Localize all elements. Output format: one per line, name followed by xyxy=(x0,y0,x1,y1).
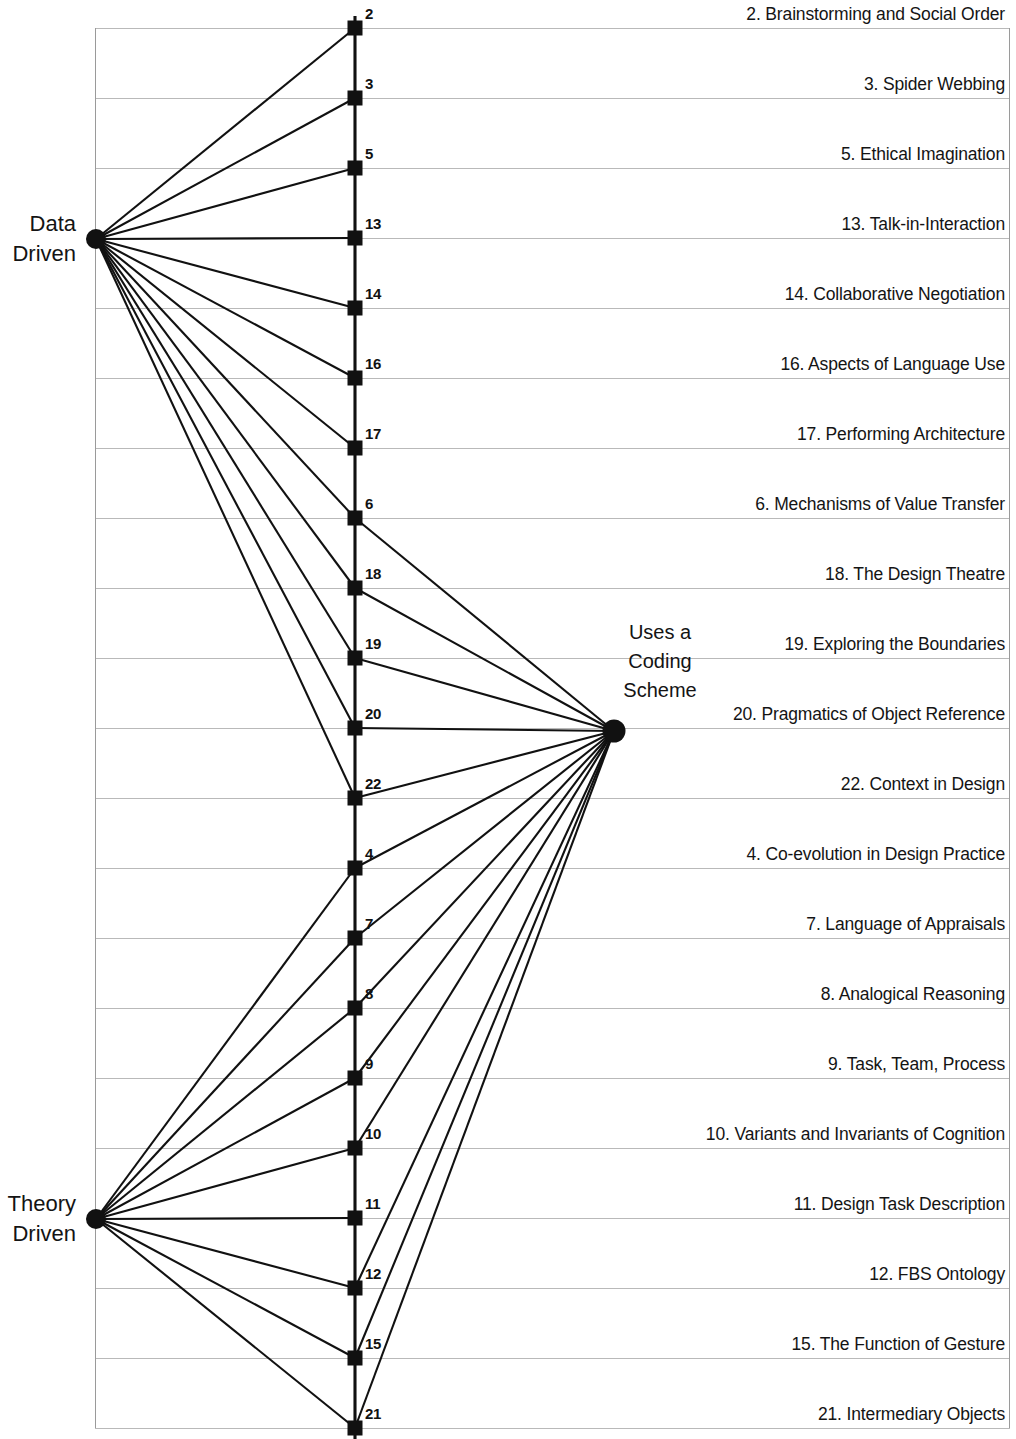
node-marker-14[interactable] xyxy=(348,301,363,316)
row-label-8: 8. Analogical Reasoning xyxy=(821,984,1005,1004)
node-number-13: 13 xyxy=(365,215,381,232)
node-number-22: 22 xyxy=(365,775,381,792)
node-marker-21[interactable] xyxy=(348,1421,363,1436)
row-label-13: 13. Talk-in-Interaction xyxy=(841,214,1005,234)
row-label-20: 20. Pragmatics of Object Reference xyxy=(733,704,1005,724)
data-driven-hub-dot[interactable] xyxy=(86,229,106,249)
edge-data_driven-to-node-18 xyxy=(96,239,355,588)
edge-coding_scheme-to-node-10 xyxy=(355,731,614,1148)
node-number-8: 8 xyxy=(365,985,373,1002)
row-label-2: 2. Brainstorming and Social Order xyxy=(746,4,1005,24)
row-label-4: 4. Co-evolution in Design Practice xyxy=(746,844,1005,864)
edge-data_driven-to-node-13 xyxy=(96,238,355,239)
node-number-12: 12 xyxy=(365,1265,381,1282)
edge-coding_scheme-to-node-18 xyxy=(355,588,614,731)
node-number-3: 3 xyxy=(365,75,373,92)
row-label-18: 18. The Design Theatre xyxy=(825,564,1005,584)
node-number-7: 7 xyxy=(365,915,373,932)
coding-scheme-hub-label-line-3: Scheme xyxy=(623,679,696,701)
row-label-22: 22. Context in Design xyxy=(841,774,1005,794)
node-number-5: 5 xyxy=(365,145,373,162)
row-label-21: 21. Intermediary Objects xyxy=(818,1404,1005,1424)
row-label-15: 15. The Function of Gesture xyxy=(791,1334,1005,1354)
node-marker-12[interactable] xyxy=(348,1281,363,1296)
data-driven-hub-label-line-2: Driven xyxy=(12,241,76,266)
node-marker-2[interactable] xyxy=(348,21,363,36)
coding-scheme-hub-label-line-1: Uses a xyxy=(629,621,692,643)
edge-data_driven-to-node-5 xyxy=(96,168,355,239)
edge-coding_scheme-to-node-4 xyxy=(355,731,614,868)
node-marker-20[interactable] xyxy=(348,721,363,736)
edge-coding_scheme-to-node-6 xyxy=(355,518,614,731)
edge-theory_driven-to-node-12 xyxy=(96,1219,355,1288)
node-marker-7[interactable] xyxy=(348,931,363,946)
node-number-16: 16 xyxy=(365,355,381,372)
edge-coding_scheme-to-node-8 xyxy=(355,731,614,1008)
node-marker-17[interactable] xyxy=(348,441,363,456)
node-markers-layer xyxy=(348,21,363,1436)
node-number-19: 19 xyxy=(365,635,381,652)
row-labels-layer: 2. Brainstorming and Social Order3. Spid… xyxy=(706,4,1006,1424)
edge-theory_driven-to-node-10 xyxy=(96,1148,355,1219)
row-label-7: 7. Language of Appraisals xyxy=(806,914,1005,934)
edge-coding_scheme-to-node-22 xyxy=(355,731,614,798)
node-number-15: 15 xyxy=(365,1335,381,1352)
edge-theory_driven-to-node-8 xyxy=(96,1008,355,1219)
edge-data_driven-to-node-2 xyxy=(96,28,355,239)
theory-driven-hub-dot[interactable] xyxy=(86,1209,106,1229)
edge-coding_scheme-to-node-19 xyxy=(355,658,614,731)
node-number-11: 11 xyxy=(365,1195,380,1212)
node-number-14: 14 xyxy=(365,285,382,302)
row-label-9: 9. Task, Team, Process xyxy=(828,1054,1005,1074)
row-label-6: 6. Mechanisms of Value Transfer xyxy=(755,494,1005,514)
node-number-21: 21 xyxy=(365,1405,381,1422)
node-number-17: 17 xyxy=(365,425,381,442)
node-number-10: 10 xyxy=(365,1125,381,1142)
node-marker-15[interactable] xyxy=(348,1351,363,1366)
bipartite-diagram-canvas: 2351314161761819202247891011121521 2. Br… xyxy=(0,0,1016,1439)
row-label-16: 16. Aspects of Language Use xyxy=(780,354,1005,374)
data-driven-hub-label-line-1: Data xyxy=(30,211,77,236)
node-marker-5[interactable] xyxy=(348,161,363,176)
node-number-6: 6 xyxy=(365,495,373,512)
row-label-5: 5. Ethical Imagination xyxy=(841,144,1005,164)
edge-theory_driven-to-node-4 xyxy=(96,868,355,1219)
node-marker-3[interactable] xyxy=(348,91,363,106)
edge-data_driven-to-node-20 xyxy=(96,239,355,728)
node-number-9: 9 xyxy=(365,1055,373,1072)
node-number-20: 20 xyxy=(365,705,381,722)
node-number-4: 4 xyxy=(365,845,374,862)
edge-coding_scheme-to-node-15 xyxy=(355,731,614,1358)
node-marker-13[interactable] xyxy=(348,231,363,246)
row-label-10: 10. Variants and Invariants of Cognition xyxy=(706,1124,1005,1144)
theory-driven-hub-label-line-1: Theory xyxy=(8,1191,76,1216)
row-label-17: 17. Performing Architecture xyxy=(797,424,1005,444)
theory-driven-hub-label-line-2: Driven xyxy=(12,1221,76,1246)
edge-data_driven-to-node-17 xyxy=(96,239,355,448)
edge-coding_scheme-to-node-12 xyxy=(355,731,614,1288)
node-marker-4[interactable] xyxy=(348,861,363,876)
node-marker-8[interactable] xyxy=(348,1001,363,1016)
row-label-12: 12. FBS Ontology xyxy=(869,1264,1005,1284)
edge-coding_scheme-to-node-9 xyxy=(355,731,614,1078)
node-marker-22[interactable] xyxy=(348,791,363,806)
edge-theory_driven-to-node-21 xyxy=(96,1219,355,1428)
row-label-3: 3. Spider Webbing xyxy=(864,74,1005,94)
node-number-2: 2 xyxy=(365,5,373,22)
node-marker-11[interactable] xyxy=(348,1211,363,1226)
node-marker-9[interactable] xyxy=(348,1071,363,1086)
node-marker-16[interactable] xyxy=(348,371,363,386)
node-numbers-layer: 2351314161761819202247891011121521 xyxy=(365,5,382,1422)
edge-data_driven-to-node-14 xyxy=(96,239,355,308)
row-label-19: 19. Exploring the Boundaries xyxy=(784,634,1005,654)
node-number-18: 18 xyxy=(365,565,381,582)
row-label-11: 11. Design Task Description xyxy=(794,1194,1005,1214)
coding-scheme-hub-label-line-2: Coding xyxy=(628,650,691,672)
node-marker-6[interactable] xyxy=(348,511,363,526)
node-marker-18[interactable] xyxy=(348,581,363,596)
edge-theory_driven-to-node-11 xyxy=(96,1218,355,1219)
diagram-root: 2351314161761819202247891011121521 2. Br… xyxy=(0,0,1016,1439)
node-marker-10[interactable] xyxy=(348,1141,363,1156)
coding-scheme-hub-dot[interactable] xyxy=(603,720,626,743)
node-marker-19[interactable] xyxy=(348,651,363,666)
